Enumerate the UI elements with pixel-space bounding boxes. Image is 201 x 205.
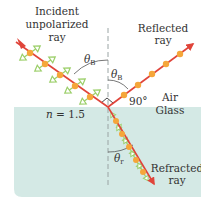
refracted-label-line2: ray bbox=[168, 174, 185, 186]
right-angle-label: 90° bbox=[129, 95, 148, 107]
reflected-angle-label: θB bbox=[111, 68, 122, 82]
air-label: Air bbox=[161, 91, 179, 103]
index-label: n = 1.5 bbox=[46, 108, 85, 120]
reflected-label-line1: Reflected bbox=[138, 22, 189, 34]
incident-label-line1: Incident bbox=[35, 5, 80, 17]
brewster-diagram: Incident unpolarized ray Reflected ray R… bbox=[0, 0, 201, 205]
glass-label: Glass bbox=[156, 104, 185, 116]
reflected-label-line2: ray bbox=[154, 34, 171, 46]
incident-angle-label: θB bbox=[84, 53, 95, 67]
incident-label-line3: ray bbox=[48, 31, 65, 43]
refracted-label-line1: Refracted bbox=[151, 162, 201, 174]
right-angle-marker bbox=[101, 98, 113, 103]
incident-label-line2: unpolarized bbox=[25, 18, 88, 30]
